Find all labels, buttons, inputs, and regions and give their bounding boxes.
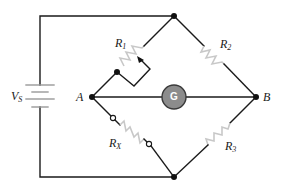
- node-bottom: [171, 174, 177, 180]
- wire-bottom: [40, 107, 174, 177]
- label-r1: R1: [115, 37, 126, 51]
- label-vs: VS: [11, 90, 22, 104]
- battery-icon: [26, 85, 54, 107]
- label-node-a: A: [76, 91, 83, 103]
- node-b: [253, 94, 259, 100]
- node-top: [171, 13, 177, 19]
- label-r3: R3: [225, 140, 236, 154]
- resistor-rx-icon: [120, 121, 144, 143]
- wheatstone-bridge-diagram: VS A B R1 R2 R3 RX G: [0, 0, 282, 190]
- label-r1-subscript: 1: [122, 42, 126, 51]
- label-galvanometer: G: [170, 92, 178, 102]
- label-rx: RX: [109, 137, 121, 151]
- label-node-b: B: [263, 91, 270, 103]
- wire-top: [40, 16, 174, 85]
- circuit-svg: [0, 0, 282, 190]
- label-r3-subscript: 3: [232, 145, 236, 154]
- label-r2: R2: [220, 38, 231, 52]
- wire-a-r1: [92, 72, 117, 97]
- label-r2-subscript: 2: [227, 43, 231, 52]
- node-a: [89, 94, 95, 100]
- label-vs-subscript: S: [18, 95, 22, 104]
- label-rx-subscript: X: [116, 142, 121, 151]
